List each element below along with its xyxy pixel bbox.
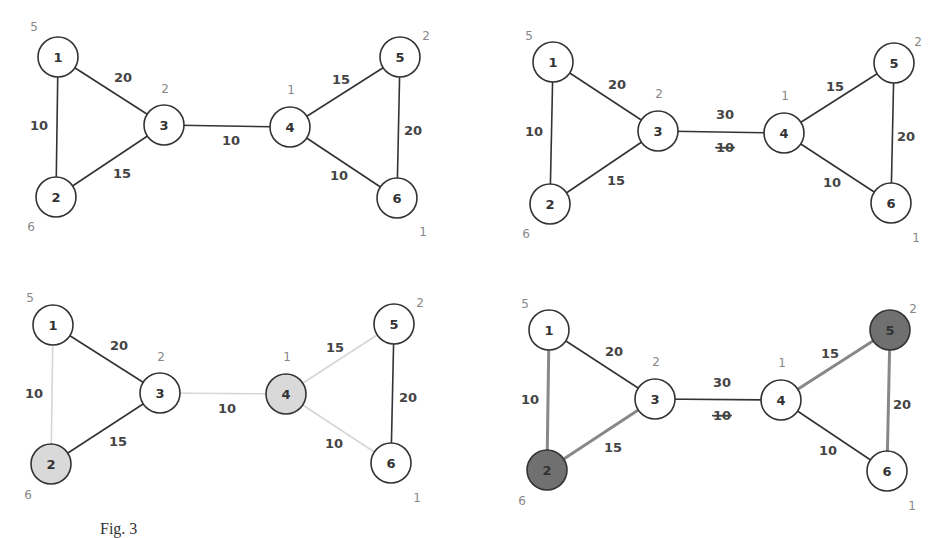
edge-weight: 20	[897, 129, 915, 144]
edge-weight: 15	[821, 346, 839, 361]
graph-panel-top-left: 20101510152010152632415261	[27, 20, 430, 239]
node-label: 3	[650, 392, 659, 407]
edge-5-6	[891, 63, 894, 203]
node-label: 3	[653, 124, 662, 139]
node-side-value: 1	[908, 499, 916, 513]
node-label: 3	[155, 386, 164, 401]
node-side-value: 5	[26, 291, 34, 305]
edge-weight: 10	[25, 386, 43, 401]
edge-weight: 20	[893, 397, 911, 412]
edge-weight: 15	[113, 166, 131, 181]
node-side-value: 5	[525, 29, 533, 43]
edge-weight: 10	[222, 133, 240, 148]
node-side-value: 1	[778, 356, 786, 370]
graph-panel-bottom-right: 2010153010152010152632415261	[518, 297, 917, 513]
edge-5-6	[887, 330, 890, 471]
node-label: 2	[545, 197, 554, 212]
edge-1-2	[56, 57, 58, 197]
node-side-value: 1	[287, 83, 295, 97]
edge-weight: 20	[404, 123, 422, 138]
edge-weight: 10	[819, 443, 837, 458]
edge-weight: 30	[716, 107, 734, 122]
node-label: 4	[779, 126, 788, 141]
edge-weight: 15	[332, 72, 350, 87]
node-label: 3	[159, 118, 168, 133]
edge-5-6	[391, 324, 394, 463]
node-label: 6	[886, 196, 895, 211]
node-label: 4	[285, 120, 294, 135]
node-label: 4	[281, 387, 290, 402]
edge-weight: 20	[399, 390, 417, 405]
edge-weight: 10	[330, 168, 348, 183]
node-label: 2	[542, 463, 551, 478]
node-side-value: 6	[522, 227, 530, 241]
node-side-value: 2	[655, 87, 663, 101]
node-label: 1	[48, 318, 57, 333]
edge-weight: 15	[326, 340, 344, 355]
node-label: 1	[53, 50, 62, 65]
node-label: 4	[776, 393, 785, 408]
edge-weight: 10	[823, 175, 841, 190]
node-side-value: 2	[161, 82, 169, 96]
node-side-value: 1	[419, 225, 427, 239]
node-label: 6	[386, 456, 395, 471]
edge-1-2	[550, 62, 553, 204]
edge-weight: 10	[521, 392, 539, 407]
node-side-value: 6	[27, 220, 35, 234]
edge-weight: 15	[607, 173, 625, 188]
node-side-value: 1	[781, 89, 789, 103]
edge-1-2	[51, 325, 53, 464]
node-side-value: 6	[518, 494, 526, 508]
edge-weight: 15	[826, 79, 844, 94]
edge-weight: 10	[525, 124, 543, 139]
node-side-value: 6	[24, 488, 32, 502]
edge-weight: 10	[325, 436, 343, 451]
edge-weight: 20	[605, 344, 623, 359]
node-side-value: 2	[652, 355, 660, 369]
node-side-value: 5	[30, 20, 38, 34]
node-side-value: 5	[521, 297, 529, 311]
edge-weight: 10	[218, 401, 236, 416]
node-side-value: 2	[157, 350, 165, 364]
edge-weight: 10	[30, 118, 48, 133]
node-label: 2	[51, 190, 60, 205]
edge-weight: 20	[110, 338, 128, 353]
graph-panel-top-right: 2010153010152010152632415261	[522, 29, 922, 245]
node-label: 5	[389, 317, 398, 332]
node-side-value: 2	[914, 35, 922, 49]
node-side-value: 1	[912, 231, 920, 245]
node-side-value: 2	[422, 29, 430, 43]
node-label: 6	[882, 464, 891, 479]
edge-weight: 15	[109, 434, 127, 449]
edge-weight: 20	[114, 70, 132, 85]
node-label: 5	[395, 50, 404, 65]
edge-weight: 15	[604, 440, 622, 455]
node-label: 2	[46, 457, 55, 472]
node-label: 5	[885, 323, 894, 338]
node-side-value: 2	[909, 302, 917, 316]
edge-5-6	[397, 57, 400, 198]
edge-weight: 20	[608, 77, 626, 92]
node-label: 6	[392, 191, 401, 206]
graph-panel-bottom-left: 20101510152010152632415261	[24, 291, 424, 505]
node-label: 5	[889, 56, 898, 71]
edge-1-2	[547, 330, 549, 470]
node-side-value: 2	[416, 296, 424, 310]
node-label: 1	[544, 323, 553, 338]
node-side-value: 1	[413, 491, 421, 505]
node-label: 1	[548, 55, 557, 70]
edge-weight: 30	[713, 375, 731, 390]
node-side-value: 1	[283, 350, 291, 364]
figure-caption: Fig. 3	[100, 520, 137, 538]
